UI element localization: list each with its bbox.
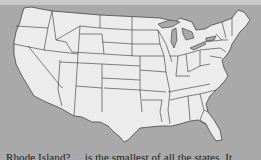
map-caption: Rhode Island? ... is the smallest of all… [6,151,261,160]
us-states-map [0,0,261,160]
document-page: Rhode Island? ... is the smallest of all… [0,0,261,160]
